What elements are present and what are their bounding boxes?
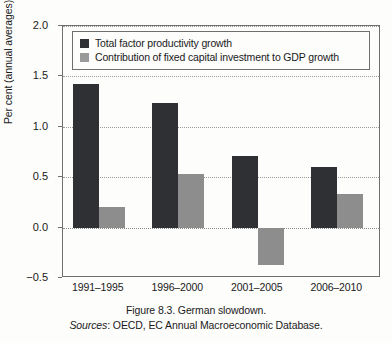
y-tick-label: 1.0	[0, 120, 55, 132]
legend-item-contribution-of-fixed-capital-investment: Contribution of fixed capital investment…	[80, 50, 362, 64]
caption-title: Figure 8.3. German slowdown.	[0, 303, 392, 318]
bar	[337, 194, 363, 227]
figure-caption: Figure 8.3. German slowdown. Sources: OE…	[0, 303, 392, 333]
legend: Total factor productivity growth Contrib…	[72, 31, 370, 70]
legend-label: Total factor productivity growth	[95, 36, 232, 50]
caption-sources-word: Sources	[69, 319, 107, 331]
y-tick-mark	[58, 176, 62, 177]
y-tick-mark	[58, 126, 62, 127]
figure-container: Per cent (annual averages) 2.01.51.00.50…	[0, 0, 392, 343]
x-tick-label: 2001–2005	[217, 281, 297, 293]
x-tick-label: 1991–1995	[58, 281, 138, 293]
legend-swatch-dark-icon	[80, 39, 89, 48]
bar	[73, 84, 99, 227]
y-tick-label: 0.5	[0, 170, 55, 182]
legend-swatch-light-icon	[80, 53, 89, 62]
x-tick-label: 2006–2010	[296, 281, 376, 293]
legend-item-total-factor-productivity-growth: Total factor productivity growth	[80, 36, 362, 50]
y-tick-label: 2.0	[0, 19, 55, 31]
caption-sources-rest: : OECD, EC Annual Macroeconomic Database…	[107, 319, 322, 331]
y-tick-mark	[58, 75, 62, 76]
y-tick-mark	[58, 25, 62, 26]
bar	[311, 167, 337, 227]
y-tick-label: 1.5	[0, 69, 55, 81]
x-tick-label: 1996–2000	[137, 281, 217, 293]
y-tick-label: 0.0	[0, 221, 55, 233]
bar	[152, 103, 178, 228]
caption-sources: Sources: OECD, EC Annual Macroeconomic D…	[0, 318, 392, 333]
bar	[232, 156, 258, 228]
y-tick-label: −0.5	[0, 271, 55, 283]
bar	[178, 174, 204, 227]
bar	[99, 207, 125, 227]
y-tick-mark	[58, 227, 62, 228]
legend-label: Contribution of fixed capital investment…	[95, 50, 339, 64]
y-tick-mark	[58, 277, 62, 278]
bar	[258, 228, 284, 265]
